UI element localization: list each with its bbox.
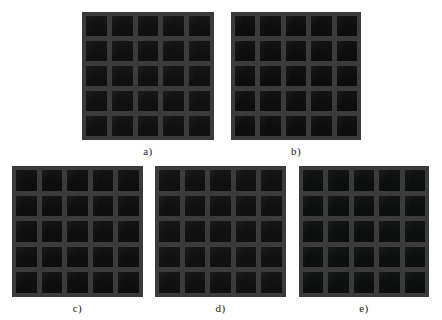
panel-b: b) — [231, 12, 361, 157]
grid-cell — [235, 66, 255, 86]
grid-cell — [311, 116, 331, 136]
grid-cell — [235, 16, 255, 36]
panel-a: a) — [82, 12, 214, 157]
grid-cell — [163, 66, 184, 86]
grid-cell — [159, 170, 180, 191]
grid-cell — [311, 91, 331, 111]
grid-cell — [210, 272, 231, 293]
grid-cell — [16, 170, 37, 191]
grid-cell — [189, 16, 210, 36]
grid-cell — [159, 221, 180, 242]
grid-cell — [67, 272, 88, 293]
grid-cell — [185, 196, 206, 217]
grid-cell — [328, 247, 348, 268]
grid-cell — [261, 247, 282, 268]
grid-cell — [261, 170, 282, 191]
grid-cell — [185, 170, 206, 191]
grid-cell — [210, 170, 231, 191]
grid-cell — [185, 272, 206, 293]
panel-e: e) — [299, 166, 429, 314]
grid-cell — [260, 116, 280, 136]
grid-cell — [118, 196, 139, 217]
panel-caption-d: d) — [155, 303, 286, 314]
grid-cell — [138, 41, 159, 61]
grid-cell — [235, 41, 255, 61]
grid-cell — [163, 91, 184, 111]
grid-cell — [67, 247, 88, 268]
grid-cell — [159, 247, 180, 268]
grid-cell — [261, 196, 282, 217]
grid-cell — [210, 196, 231, 217]
grid-cell — [93, 247, 114, 268]
grid-cell — [138, 116, 159, 136]
grid-cell — [86, 16, 107, 36]
grid-cell — [337, 66, 357, 86]
grid-cell — [159, 272, 180, 293]
grid-cell — [93, 272, 114, 293]
grid-cell — [303, 272, 323, 293]
grid-cell — [189, 91, 210, 111]
grid-cell — [337, 116, 357, 136]
grid-cell — [93, 170, 114, 191]
grid-cell — [86, 41, 107, 61]
grid-array-e — [299, 166, 429, 297]
grid-cell — [235, 116, 255, 136]
grid-cell — [235, 91, 255, 111]
grid-cell — [112, 16, 133, 36]
grid-array-b — [231, 12, 361, 140]
grid-cell — [303, 196, 323, 217]
grid-cell — [42, 170, 63, 191]
grid-cell — [260, 66, 280, 86]
grid-cell — [337, 91, 357, 111]
grid-cell — [185, 221, 206, 242]
grid-cell — [354, 221, 374, 242]
grid-cell — [311, 66, 331, 86]
grid-cell — [118, 170, 139, 191]
grid-cell — [405, 170, 425, 191]
grid-cell — [354, 196, 374, 217]
grid-cell — [163, 16, 184, 36]
grid-cell — [210, 247, 231, 268]
grid-cell — [86, 116, 107, 136]
grid-array-c — [12, 166, 143, 297]
panel-caption-c: c) — [12, 303, 143, 314]
grid-cell — [138, 91, 159, 111]
grid-array-a — [82, 12, 214, 140]
grid-cell — [163, 116, 184, 136]
grid-cell — [86, 91, 107, 111]
grid-cell — [112, 91, 133, 111]
grid-cell — [354, 170, 374, 191]
grid-cell — [286, 16, 306, 36]
grid-cell — [118, 247, 139, 268]
grid-cell — [236, 170, 257, 191]
grid-cell — [138, 16, 159, 36]
grid-cell — [185, 247, 206, 268]
grid-cell — [118, 221, 139, 242]
grid-cell — [260, 16, 280, 36]
grid-cell — [236, 196, 257, 217]
figure-multipanel: a) — [0, 0, 442, 320]
grid-cell — [189, 41, 210, 61]
panel-caption-e: e) — [299, 303, 429, 314]
grid-cell — [210, 221, 231, 242]
grid-cell — [189, 116, 210, 136]
grid-cell — [379, 221, 399, 242]
grid-cell — [112, 41, 133, 61]
grid-cell — [379, 170, 399, 191]
grid-cell — [236, 221, 257, 242]
grid-cell — [303, 170, 323, 191]
grid-cell — [328, 221, 348, 242]
grid-cell — [236, 272, 257, 293]
grid-cell — [260, 91, 280, 111]
grid-cell — [286, 66, 306, 86]
grid-cell — [42, 196, 63, 217]
grid-cell — [93, 196, 114, 217]
grid-cell — [138, 66, 159, 86]
grid-cell — [379, 247, 399, 268]
panel-c: c) — [12, 166, 143, 314]
grid-cell — [286, 41, 306, 61]
grid-cell — [328, 272, 348, 293]
grid-cell — [311, 16, 331, 36]
grid-cell — [286, 91, 306, 111]
grid-cell — [311, 41, 331, 61]
